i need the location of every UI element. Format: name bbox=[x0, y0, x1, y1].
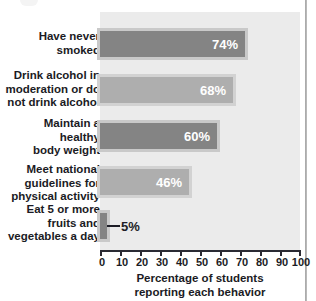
bar-eat-5-or-more-fruits-vegetables[interactable]: 5% bbox=[97, 210, 110, 242]
bar-value-label: 5% bbox=[107, 220, 140, 233]
bar-value-label: 46% bbox=[156, 176, 189, 189]
bar-have-never-smoked[interactable]: 74% bbox=[97, 28, 248, 60]
bar-row: 46% bbox=[100, 166, 300, 198]
x-axis-title: Percentage of students reporting each be… bbox=[100, 272, 300, 299]
bar-value-label: 60% bbox=[184, 130, 217, 143]
bar-row: 60% bbox=[100, 120, 300, 152]
bar-row: 5% bbox=[100, 210, 300, 242]
category-label-1: Drink alcohol in moderation or do not dr… bbox=[5, 69, 100, 110]
bar-meet-national-guidelines-physical-activity[interactable]: 46% bbox=[97, 166, 192, 198]
bar-value-label: 68% bbox=[200, 84, 233, 97]
bar-row: 74% bbox=[100, 28, 300, 60]
category-label-3: Meet national guidelines for physical ac… bbox=[11, 163, 100, 204]
category-label-2: Maintain a healthy body weight bbox=[33, 117, 100, 158]
bar-drink-alcohol-moderation[interactable]: 68% bbox=[97, 74, 236, 106]
chart-page: Have never smoked Drink alcohol in moder… bbox=[0, 0, 316, 301]
bar-maintain-healthy-body-weight[interactable]: 60% bbox=[97, 120, 220, 152]
category-label-4: Eat 5 or more fruits and vegetables a da… bbox=[8, 203, 100, 244]
bar-row: 68% bbox=[100, 74, 300, 106]
category-label-0: Have never smoked bbox=[39, 30, 100, 57]
plot-area: 74% 68% 60% 46% 5% bbox=[100, 12, 300, 250]
bar-value-label: 74% bbox=[212, 38, 245, 51]
x-axis-tick-label: 100 bbox=[286, 256, 316, 269]
scan-artifact bbox=[20, 0, 38, 6]
